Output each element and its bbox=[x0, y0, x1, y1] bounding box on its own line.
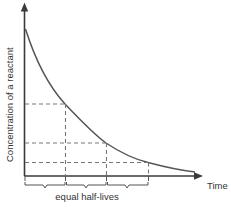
y-axis-arrow-icon bbox=[21, 3, 28, 12]
chart-canvas: Concentration of a reactant Time equal h… bbox=[0, 0, 231, 212]
half-life-brace-1 bbox=[25, 182, 65, 188]
half-life-decay-figure: Concentration of a reactant Time equal h… bbox=[0, 0, 231, 212]
x-axis-arrow-icon bbox=[194, 172, 203, 179]
y-axis-label: Concentration of a reactant bbox=[4, 47, 15, 162]
x-axis bbox=[25, 172, 204, 179]
decay-curve bbox=[26, 29, 196, 172]
y-axis bbox=[21, 3, 28, 177]
half-life-brace-3 bbox=[108, 182, 149, 188]
half-life-brace-2 bbox=[67, 182, 107, 188]
x-axis-label: Time bbox=[207, 180, 228, 191]
equal-half-lives-label: equal half-lives bbox=[55, 191, 119, 202]
